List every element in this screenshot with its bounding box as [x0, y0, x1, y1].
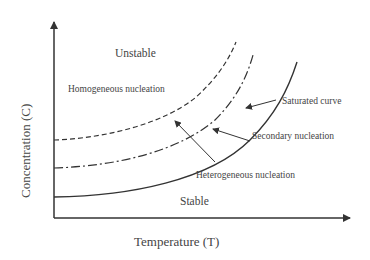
diagram-canvas: Unstable Homogeneous nucleation Saturate… [0, 0, 370, 260]
secondary-nucleation-label: Secondary nucleation [252, 131, 334, 141]
secondary-pointer-arrow [213, 129, 250, 141]
secondary-nucleation-curve [54, 55, 253, 168]
saturated-curve-label: Saturated curve [282, 96, 341, 106]
saturated-pointer-arrow [246, 100, 276, 108]
stable-label: Stable [180, 195, 209, 207]
y-axis-label: Concentration (C) [18, 104, 33, 198]
nucleation-diagram: Unstable Homogeneous nucleation Saturate… [0, 0, 370, 260]
x-axis-label: Temperature (T) [134, 234, 219, 249]
heterogeneous-nucleation-label: Heterogeneous nucleation [196, 170, 295, 180]
homogeneous-nucleation-label: Homogeneous nucleation [68, 84, 165, 94]
unstable-label: Unstable [115, 47, 156, 59]
heterogeneous-pointer-arrow [175, 121, 215, 162]
